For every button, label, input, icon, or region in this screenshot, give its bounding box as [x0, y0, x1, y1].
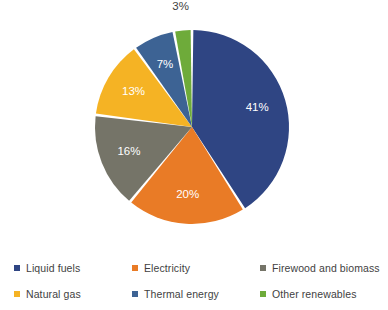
legend-label-electricity: Electricity: [144, 263, 190, 274]
legend-label-natural-gas: Natural gas: [26, 289, 81, 300]
legend-label-other-renewables: Other renewables: [272, 289, 356, 300]
legend-label-liquid-fuels: Liquid fuels: [26, 263, 80, 274]
legend-item-thermal-energy[interactable]: Thermal energy: [132, 289, 260, 300]
legend-swatch-firewood-and-biomass: [260, 265, 266, 271]
legend-label-firewood-and-biomass: Firewood and biomass: [272, 263, 380, 274]
legend-swatch-thermal-energy: [132, 291, 138, 297]
pie-chart-plot-area: 41%20%16%13%7%3%: [0, 0, 388, 248]
pie-data-label: 3%: [172, 0, 189, 12]
chart-legend: Liquid fuels Electricity Firewood and bi…: [0, 255, 388, 307]
legend-item-firewood-and-biomass[interactable]: Firewood and biomass: [260, 263, 382, 274]
pie-data-label: 13%: [122, 85, 145, 97]
legend-label-thermal-energy: Thermal energy: [144, 289, 219, 300]
legend-swatch-liquid-fuels: [14, 265, 20, 271]
legend-swatch-electricity: [132, 265, 138, 271]
pie-data-label: 7%: [157, 58, 174, 70]
pie-chart-figure: 41%20%16%13%7%3% Liquid fuels Electricit…: [0, 0, 388, 310]
pie-chart-svg: 41%20%16%13%7%3%: [0, 0, 388, 248]
legend-item-natural-gas[interactable]: Natural gas: [14, 289, 132, 300]
pie-data-label: 20%: [176, 188, 199, 200]
legend-item-other-renewables[interactable]: Other renewables: [260, 289, 382, 300]
legend-swatch-natural-gas: [14, 291, 20, 297]
legend-item-electricity[interactable]: Electricity: [132, 263, 260, 274]
legend-item-liquid-fuels[interactable]: Liquid fuels: [14, 263, 132, 274]
pie-data-label: 41%: [246, 101, 269, 113]
pie-data-label: 16%: [117, 145, 140, 157]
legend-swatch-other-renewables: [260, 291, 266, 297]
